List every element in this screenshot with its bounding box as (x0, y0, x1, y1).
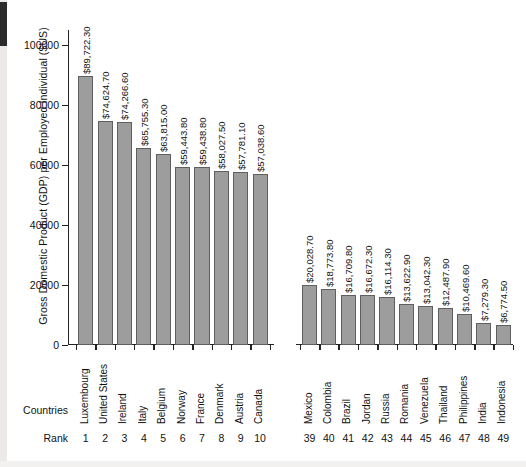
bar-value-label: $59,438.80 (196, 117, 207, 165)
x-tick-mark (154, 345, 155, 350)
bar-value-label: $10,469.60 (459, 264, 470, 312)
y-tick-mark (62, 225, 68, 226)
rank-value: 7 (199, 432, 205, 444)
bar: $6,774.50 (496, 325, 511, 345)
bar: $18,773.80 (321, 289, 336, 345)
x-tick-mark (270, 345, 271, 350)
bar: $74,624.70 (98, 121, 113, 345)
bar: $59,438.80 (194, 167, 209, 345)
x-tick-mark (494, 345, 495, 350)
category-label: Indonesia (496, 381, 507, 424)
category-label: Russia (380, 393, 391, 424)
category-label: Austria (234, 393, 245, 424)
y-tick-mark (62, 345, 68, 346)
y-tick-label: 60000 (30, 159, 59, 171)
x-tick-mark (474, 345, 475, 350)
bar-value-label: $74,266.60 (119, 73, 130, 121)
bar: $16,672.30 (360, 295, 375, 345)
category-label: Denmark (214, 383, 225, 424)
bar-value-label: $6,774.50 (498, 280, 509, 322)
bar: $16,114.30 (379, 297, 394, 345)
rank-value: 41 (342, 432, 354, 444)
x-tick-mark (134, 345, 135, 350)
y-tick-mark (62, 165, 68, 166)
rank-value: 5 (160, 432, 166, 444)
plot-area: 020000400006000080000100000 $89,722.30$7… (68, 30, 513, 345)
x-tick-mark (96, 345, 97, 350)
category-label: Jordan (361, 393, 372, 424)
category-label: Thailand (438, 386, 449, 424)
bar-value-label: $13,622.90 (401, 255, 412, 303)
rank-value: 45 (420, 432, 432, 444)
rank-value: 9 (238, 432, 244, 444)
bar-value-label: $58,027.50 (216, 121, 227, 169)
rank-value: 42 (362, 432, 374, 444)
x-tick-mark (319, 345, 320, 350)
category-label: Italy (137, 406, 148, 424)
bar: $13,622.90 (399, 304, 414, 345)
bar: $74,266.60 (117, 122, 132, 345)
y-tick-label: 20000 (30, 279, 59, 291)
category-labels: LuxembourgUnited StatesIrelandItalyBelgi… (68, 352, 513, 424)
rank-value: 47 (459, 432, 471, 444)
category-label: India (477, 402, 488, 424)
bar-value-label: $18,773.80 (323, 239, 334, 287)
category-label: Mexico (303, 392, 314, 424)
category-label: Philippines (458, 376, 469, 424)
y-tick-label: 0 (53, 339, 59, 351)
bar: $57,781.10 (233, 172, 248, 345)
category-label: Belgium (156, 388, 167, 424)
x-tick-mark (192, 345, 193, 350)
rank-value: 6 (180, 432, 186, 444)
y-tick-mark (62, 285, 68, 286)
bar: $7,279.30 (476, 323, 491, 345)
bar: $20,028.70 (302, 285, 317, 345)
category-label: Venezuela (419, 377, 430, 424)
rank-axis-title: Rank (6, 432, 68, 444)
x-tick-mark (115, 345, 116, 350)
category-label: Canada (253, 389, 264, 424)
x-tick-mark (455, 345, 456, 350)
bar: $59,443.80 (175, 167, 190, 345)
category-label: United States (98, 364, 109, 424)
x-tick-mark (76, 345, 77, 350)
rank-value: 40 (323, 432, 335, 444)
y-tick-label: 80000 (30, 99, 59, 111)
bar: $13,042.30 (418, 306, 433, 345)
x-tick-mark (251, 345, 252, 350)
bar-value-label: $13,042.30 (420, 256, 431, 304)
bar: $89,722.30 (78, 76, 93, 345)
bar-value-label: $16,672.30 (362, 245, 373, 293)
category-label: Colombia (322, 382, 333, 424)
bar-value-label: $89,722.30 (80, 26, 91, 74)
countries-axis-title: Countries (6, 404, 68, 416)
bar: $57,038.60 (253, 174, 268, 345)
rank-value: 39 (304, 432, 316, 444)
x-tick-mark (397, 345, 398, 350)
rank-value: 8 (218, 432, 224, 444)
rank-value: 46 (439, 432, 451, 444)
rank-value: 3 (122, 432, 128, 444)
x-tick-mark (231, 345, 232, 350)
rank-value: 10 (254, 432, 266, 444)
rank-row: 123456789103940414243444546474849 (68, 432, 513, 448)
y-tick-label: 40000 (30, 219, 59, 231)
bar-value-label: $59,443.80 (177, 117, 188, 165)
bar-value-label: $57,781.10 (235, 122, 246, 170)
bar: $16,709.80 (341, 295, 356, 345)
gdp-per-employed-individual-bar-chart: Gross Domestic Product (GDP) per Employe… (0, 0, 526, 467)
category-label: Romania (399, 384, 410, 424)
bar: $65,755.30 (136, 148, 151, 345)
bar-value-label: $7,279.30 (478, 279, 489, 321)
bar-value-label: $20,028.70 (304, 235, 315, 283)
y-tick-mark (62, 45, 68, 46)
bar-value-label: $57,038.60 (255, 124, 266, 172)
bar-value-label: $65,755.30 (138, 98, 149, 146)
x-tick-mark (436, 345, 437, 350)
bar: $12,487.90 (438, 308, 453, 345)
bar: $63,815.00 (156, 154, 171, 345)
x-tick-mark (358, 345, 359, 350)
x-tick-mark (377, 345, 378, 350)
bar: $10,469.60 (457, 314, 472, 345)
category-label: France (195, 393, 206, 424)
